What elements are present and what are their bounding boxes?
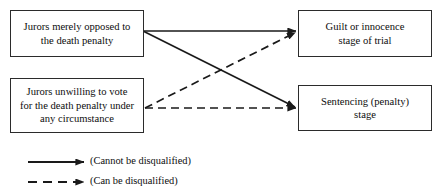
diagram-canvas: Jurors merely opposed to the death penal… bbox=[0, 0, 437, 191]
legend-item-cannot-be-disqualified: (Cannot be disqualified) bbox=[28, 152, 191, 168]
node-label: Jurors unwilling to vote for the death p… bbox=[20, 85, 134, 126]
legend-solid-arrow-icon bbox=[28, 154, 86, 166]
node-guilt-or-innocence-stage: Guilt or innocence stage of trial bbox=[298, 10, 432, 57]
node-jurors-merely-opposed: Jurors merely opposed to the death penal… bbox=[10, 10, 144, 57]
node-label: Sentencing (penalty) stage bbox=[321, 95, 409, 122]
edge-unwilling-to-guilt bbox=[145, 33, 296, 109]
legend-dashed-arrow-icon bbox=[28, 174, 86, 186]
cropped-top-caption bbox=[6, 0, 426, 2]
legend-label: (Can be disqualified) bbox=[90, 174, 178, 187]
node-label: Guilt or innocence stage of trial bbox=[326, 20, 405, 47]
edge-opposed-to-sentence bbox=[144, 32, 295, 108]
node-jurors-unwilling-to-vote: Jurors unwilling to vote for the death p… bbox=[10, 78, 144, 133]
node-sentencing-penalty-stage: Sentencing (penalty) stage bbox=[298, 85, 432, 131]
legend-item-can-be-disqualified: (Can be disqualified) bbox=[28, 172, 178, 188]
legend-label: (Cannot be disqualified) bbox=[90, 154, 191, 167]
node-label: Jurors merely opposed to the death penal… bbox=[24, 20, 131, 47]
